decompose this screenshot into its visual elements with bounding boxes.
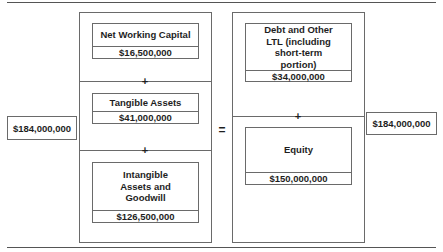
left-total-box: $184,000,000 — [7, 116, 77, 140]
equals-sign: = — [216, 124, 228, 136]
debt-box: Debt and Other LTL (including short-term… — [245, 23, 352, 82]
left-total-value: $184,000,000 — [13, 123, 71, 134]
top-rule — [7, 2, 436, 3]
net-working-capital-value: $16,500,000 — [93, 46, 198, 58]
intangible-assets-value: $126,500,000 — [93, 210, 198, 222]
right-total-value: $184,000,000 — [372, 118, 430, 129]
plus-sign-1: + — [138, 76, 152, 86]
equity-box: Equity $150,000,000 — [245, 127, 352, 185]
bottom-rule — [7, 247, 436, 248]
intangible-assets-label: Intangible Assets and Goodwill — [93, 163, 198, 210]
equity-label: Equity — [246, 128, 351, 172]
tangible-assets-box: Tangible Assets $41,000,000 — [92, 93, 199, 124]
net-working-capital-label: Net Working Capital — [93, 24, 198, 46]
debt-value: $34,000,000 — [246, 70, 351, 82]
tangible-assets-label: Tangible Assets — [93, 94, 198, 111]
debt-label: Debt and Other LTL (including short-term… — [246, 24, 351, 70]
intangible-assets-box: Intangible Assets and Goodwill $126,500,… — [92, 162, 199, 223]
plus-sign-2: + — [138, 145, 152, 155]
right-total-box: $184,000,000 — [366, 112, 437, 135]
net-working-capital-box: Net Working Capital $16,500,000 — [92, 23, 199, 59]
equity-value: $150,000,000 — [246, 172, 351, 184]
tangible-assets-value: $41,000,000 — [93, 111, 198, 123]
plus-sign-3: + — [291, 111, 305, 121]
